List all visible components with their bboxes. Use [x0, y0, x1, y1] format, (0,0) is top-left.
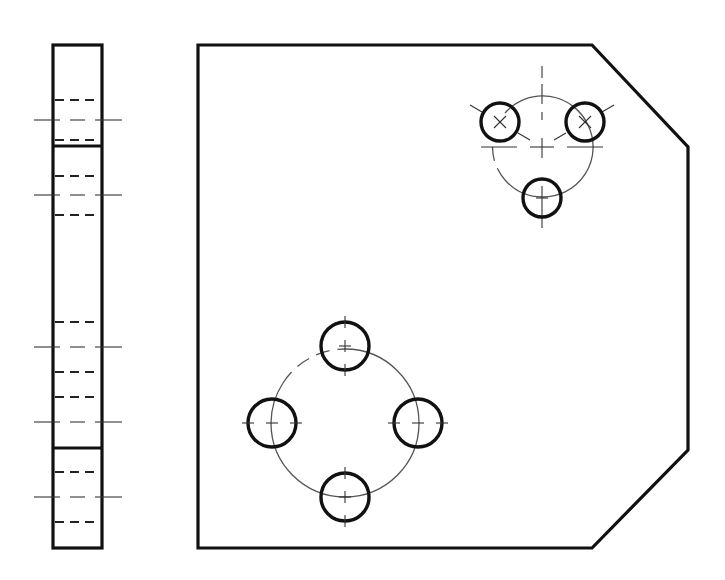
- technical-drawing: [0, 0, 725, 580]
- plate-outline: [198, 45, 688, 548]
- drawing-canvas: [0, 0, 725, 580]
- side-view-hidden-lines: [55, 100, 100, 522]
- four-hole-pattern: [242, 316, 448, 527]
- three-hole-pattern: [470, 66, 614, 228]
- side-view: [34, 45, 122, 548]
- front-view: [198, 45, 688, 548]
